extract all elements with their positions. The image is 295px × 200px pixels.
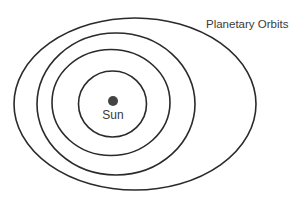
sun-label: Sun (102, 108, 123, 122)
planetary-orbits-diagram: Sun Planetary Orbits (0, 0, 295, 200)
diagram-title: Planetary Orbits (206, 18, 289, 30)
sun-icon (108, 96, 118, 106)
outer-orbit (14, 18, 256, 190)
orbits-group (14, 18, 256, 190)
